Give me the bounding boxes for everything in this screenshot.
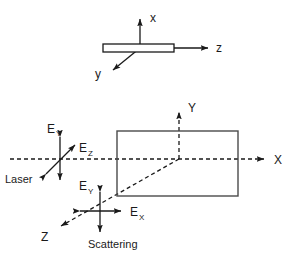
figure-background — [0, 0, 293, 265]
axis-Z-upper-label: Z — [41, 230, 48, 244]
scattering-EY-label-sub: Y — [88, 187, 94, 196]
laser-EZ-label-base: E — [79, 141, 87, 155]
raman-scattering-geometry-figure: x z y X Y Z E Y E Z — [0, 0, 293, 265]
scattering-EX-label-base: E — [130, 205, 138, 219]
laser-EY-label-sub: Y — [56, 129, 62, 138]
laser-EZ-label-sub: Z — [88, 149, 93, 158]
laser-EY-label-base: E — [47, 122, 55, 136]
scattering-caption: Scattering — [88, 238, 138, 250]
scattering-EY-label-base: E — [79, 179, 87, 193]
axis-x-lower-label: x — [150, 11, 156, 25]
axis-X-upper-label: X — [274, 153, 282, 167]
axis-z-lower-label: z — [216, 41, 222, 55]
axis-Y-upper-label: Y — [188, 101, 196, 115]
scattering-EX-label-sub: X — [139, 213, 145, 222]
sample-slab — [103, 44, 174, 52]
axis-y-lower-label: y — [95, 67, 101, 81]
laser-caption: Laser — [5, 173, 33, 185]
